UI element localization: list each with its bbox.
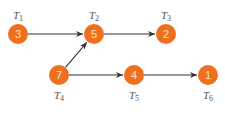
node-value-t1: 3 [8, 24, 28, 44]
node-value-t5: 4 [124, 65, 144, 85]
label-subscript: 2 [95, 14, 99, 23]
node-value-t4: 7 [49, 65, 69, 85]
diagram-canvas [0, 0, 225, 114]
nodes-group [8, 24, 218, 85]
node-label-t2: T2 [89, 10, 99, 23]
node-value-t3: 2 [156, 24, 176, 44]
node-label-t6: T6 [203, 90, 213, 103]
label-subscript: 5 [135, 94, 139, 103]
label-subscript: 4 [60, 94, 64, 103]
precedence-diagram: 3T15T22T37T44T51T6 [0, 0, 225, 114]
label-subscript: 6 [209, 94, 213, 103]
node-value-t6: 1 [198, 65, 218, 85]
node-label-t5: T5 [129, 90, 139, 103]
label-subscript: 3 [167, 14, 171, 23]
node-label-t1: T1 [13, 10, 23, 23]
node-label-t3: T3 [161, 10, 171, 23]
node-value-t2: 5 [84, 24, 104, 44]
node-label-t4: T4 [54, 90, 64, 103]
label-subscript: 1 [19, 14, 23, 23]
edge-t4-to-t2 [65, 42, 86, 67]
